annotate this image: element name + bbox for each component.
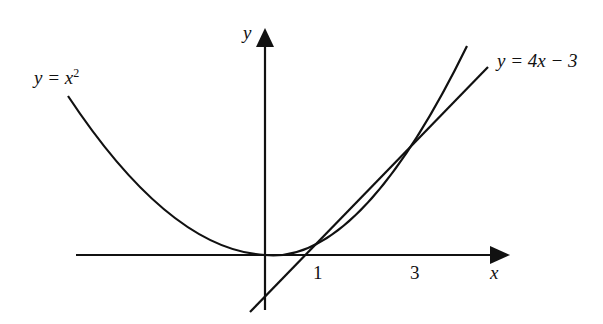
x-axis-label: x — [490, 262, 498, 284]
line-equation-label: y = 4x − 3 — [497, 50, 578, 72]
tick-label-1: 1 — [313, 262, 323, 284]
diagram-canvas — [0, 0, 603, 324]
y-axis-label: y — [243, 22, 251, 44]
parabola-exponent: 2 — [73, 66, 79, 80]
y-axis-arrow-icon — [256, 28, 274, 47]
parabola-equation-label: y = x2 — [34, 66, 79, 89]
tick-label-3: 3 — [410, 262, 420, 284]
tangent-line — [250, 67, 488, 312]
parabola-equation-text: y = x — [34, 67, 73, 88]
